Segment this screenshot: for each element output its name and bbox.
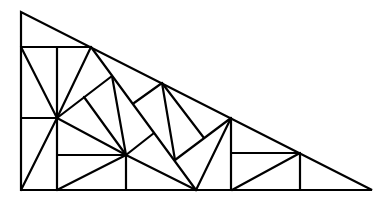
subdivided-right-triangle-diagram [0, 0, 392, 209]
